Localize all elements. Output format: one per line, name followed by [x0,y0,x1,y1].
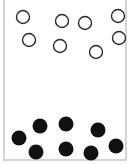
open-circle [90,46,103,59]
filled-circle [84,146,99,161]
open-circle [23,34,36,47]
particle-diagram [0,0,132,165]
open-circle [17,11,30,24]
open-circle [56,15,69,28]
filled-circle [33,119,48,134]
open-circle [54,40,67,53]
filled-circle [91,123,106,138]
open-circle [113,32,126,45]
open-circle [79,17,92,30]
filled-circle [109,139,124,154]
filled-circle [29,145,44,160]
filled-circle [12,131,27,146]
open-circle [112,10,125,23]
filled-circle [59,142,74,157]
filled-circle [59,117,74,132]
